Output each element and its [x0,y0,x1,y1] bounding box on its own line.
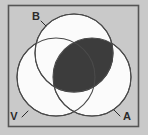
set-label-v: V [10,110,18,122]
set-label-a: A [123,110,131,122]
venn-diagram-canvas: B V A [0,0,148,135]
venn-diagram-figure: B V A [0,0,148,135]
set-label-b: B [32,10,40,22]
